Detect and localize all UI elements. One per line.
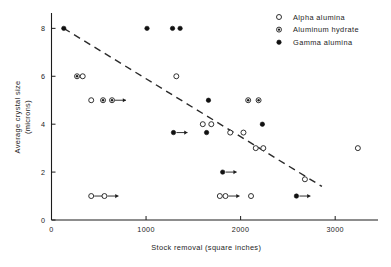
data-point [249,194,254,199]
series-alpha-alumina [80,74,360,199]
data-point [200,122,205,127]
data-point [228,130,233,135]
legend-marker [277,40,281,44]
censored-arrow-head [115,194,118,198]
data-point-core [76,75,78,77]
legend-marker-core [278,28,280,30]
data-point [220,170,224,174]
plot-canvas: 02468 0100020003000 Alpha aluminaAluminu… [0,0,391,267]
data-point [223,194,228,199]
x-tick-label: 2000 [232,225,250,234]
x-tick-label: 3000 [326,225,344,234]
data-point [294,194,298,198]
data-point [102,194,107,199]
y-tick-label: 2 [41,168,45,177]
y-axis-title-line2: (microns) [23,100,32,134]
data-point-core [102,99,104,101]
series-aluminum-hydrate [75,74,262,103]
censored-arrow-head [236,194,239,198]
data-point-core [111,99,113,101]
data-point [355,146,360,151]
censored-arrow-head [184,130,187,134]
data-point [80,74,85,79]
legend-label: Gamma alumina [293,38,353,47]
data-point [206,98,210,102]
data-point [178,26,182,30]
data-point [261,146,266,151]
scatter-chart-figure: 02468 0100020003000 Alpha aluminaAluminu… [0,0,391,267]
data-point [302,177,307,182]
y-axis-ticks: 02468 [41,24,55,225]
y-tick-label: 0 [41,216,45,225]
legend-label: Alpha alumina [293,13,346,22]
censored-arrow-head [233,170,236,174]
data-points-group [62,26,361,198]
data-point [260,122,264,126]
y-axis-title-line1: Average crystal size [13,81,22,154]
data-point [62,26,66,30]
y-tick-label: 8 [41,24,45,33]
x-axis-ticks: 0100020003000 [49,216,344,234]
censored-arrow-head [307,194,310,198]
legend-marker [277,15,282,20]
data-point [209,122,214,127]
data-point [253,146,258,151]
regression-trend-line [64,28,322,186]
x-tick-label: 0 [49,225,53,234]
data-point [174,74,179,79]
legend-label: Aluminum hydrate [293,25,359,34]
x-axis-title: Stock removal (square inches) [151,243,261,252]
y-tick-label: 6 [41,72,45,81]
data-point [241,130,246,135]
data-point [170,26,174,30]
x-tick-label: 1000 [137,225,155,234]
series-gamma-alumina [62,26,311,198]
data-point-core [257,99,259,101]
data-point [171,130,175,134]
trend-line-group [64,28,322,186]
data-point [204,130,208,134]
data-point [145,26,149,30]
data-point [217,194,222,199]
data-point [89,98,94,103]
censored-arrow-head [123,98,126,102]
y-tick-label: 4 [41,120,45,129]
data-point [89,194,94,199]
chart-legend: Alpha aluminaAluminum hydrateGamma alumi… [277,13,359,47]
data-point-core [247,99,249,101]
